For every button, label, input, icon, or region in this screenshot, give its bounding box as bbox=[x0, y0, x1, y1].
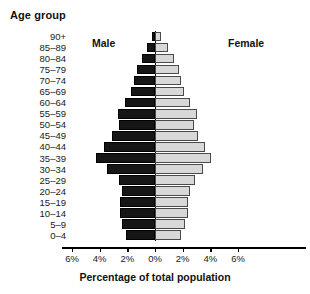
bar-female bbox=[155, 109, 197, 119]
y-axis-label: 10–14 bbox=[0, 208, 72, 219]
bar-female bbox=[155, 43, 168, 53]
bar-male bbox=[131, 87, 155, 97]
pyramid-row bbox=[72, 97, 238, 108]
pyramid-row bbox=[72, 219, 238, 230]
series-label-female: Female bbox=[228, 37, 264, 49]
pyramid-row bbox=[72, 230, 238, 241]
plot-area bbox=[72, 31, 238, 241]
y-axis-label: 55–59 bbox=[0, 108, 72, 119]
bar-male bbox=[137, 65, 155, 75]
y-axis-label: 60–64 bbox=[0, 97, 72, 108]
bar-male bbox=[119, 120, 155, 130]
y-axis-label: 80–84 bbox=[0, 53, 72, 64]
population-pyramid-chart: Age group 90+85–8980–8475–7970–7465–6960… bbox=[0, 0, 310, 294]
bar-male bbox=[107, 164, 155, 174]
x-axis-tick bbox=[210, 247, 211, 252]
y-axis-label: 65–69 bbox=[0, 86, 72, 97]
bar-male bbox=[122, 219, 155, 229]
pyramid-row bbox=[72, 175, 238, 186]
pyramid-row bbox=[72, 141, 238, 152]
pyramid-row bbox=[72, 197, 238, 208]
pyramid-row bbox=[72, 153, 238, 164]
bar-male bbox=[122, 186, 155, 196]
y-axis-label: 45–49 bbox=[0, 130, 72, 141]
pyramid-row bbox=[72, 108, 238, 119]
bar-male bbox=[120, 208, 155, 218]
bar-female bbox=[155, 208, 188, 218]
bar-female bbox=[155, 54, 174, 64]
pyramid-row bbox=[72, 130, 238, 141]
y-axis-label: 0–4 bbox=[0, 230, 72, 241]
bar-female bbox=[155, 98, 190, 108]
bar-female bbox=[155, 153, 211, 163]
y-axis-label: 20–24 bbox=[0, 186, 72, 197]
x-axis-tick-label: 6% bbox=[65, 253, 79, 264]
bar-female bbox=[155, 219, 185, 229]
x-axis-tick bbox=[155, 247, 156, 252]
x-axis-tick-label: 4% bbox=[203, 253, 217, 264]
x-axis-tick bbox=[127, 247, 128, 252]
pyramid-row bbox=[72, 64, 238, 75]
x-axis-tick bbox=[72, 247, 73, 252]
pyramid-row bbox=[72, 86, 238, 97]
bar-female bbox=[155, 120, 194, 130]
pyramid-row bbox=[72, 53, 238, 64]
y-axis-label: 30–34 bbox=[0, 164, 72, 175]
bar-male bbox=[112, 131, 155, 141]
pyramid-row bbox=[72, 208, 238, 219]
bar-male bbox=[125, 98, 155, 108]
x-axis-tick bbox=[100, 247, 101, 252]
y-axis-label: 50–54 bbox=[0, 119, 72, 130]
bar-female bbox=[155, 197, 188, 207]
x-axis-tick bbox=[238, 247, 239, 252]
pyramid-row bbox=[72, 164, 238, 175]
x-axis-tick-label: 2% bbox=[176, 253, 190, 264]
y-axis-label: 25–29 bbox=[0, 175, 72, 186]
bar-female bbox=[155, 175, 195, 185]
pyramid-row bbox=[72, 75, 238, 86]
bar-male bbox=[126, 230, 155, 240]
bar-male bbox=[104, 142, 155, 152]
bar-female bbox=[155, 32, 161, 42]
bar-male bbox=[147, 43, 155, 53]
x-axis-tick bbox=[183, 247, 184, 252]
bar-male bbox=[142, 54, 155, 64]
pyramid-row bbox=[72, 119, 238, 130]
bar-male bbox=[119, 175, 155, 185]
age-group-heading: Age group bbox=[10, 9, 66, 21]
y-axis-label: 5–9 bbox=[0, 219, 72, 230]
pyramid-row bbox=[72, 186, 238, 197]
bar-female bbox=[155, 142, 205, 152]
y-axis-label: 75–79 bbox=[0, 64, 72, 75]
y-axis-label: 90+ bbox=[0, 31, 72, 42]
bar-female bbox=[155, 65, 179, 75]
y-axis-label: 70–74 bbox=[0, 75, 72, 86]
bar-male bbox=[118, 109, 155, 119]
bar-female bbox=[155, 131, 198, 141]
y-axis-label: 40–44 bbox=[0, 141, 72, 152]
x-axis-tick-label: 0% bbox=[148, 253, 162, 264]
bar-male bbox=[120, 197, 155, 207]
bar-female bbox=[155, 164, 203, 174]
y-axis-label: 85–89 bbox=[0, 42, 72, 53]
series-label-male: Male bbox=[92, 37, 115, 49]
y-axis-label: 15–19 bbox=[0, 197, 72, 208]
x-axis-tick-label: 6% bbox=[231, 253, 245, 264]
bar-male bbox=[134, 76, 155, 86]
bar-female bbox=[155, 230, 181, 240]
bar-female bbox=[155, 87, 184, 97]
bar-female bbox=[155, 186, 190, 196]
y-axis-label: 35–39 bbox=[0, 153, 72, 164]
x-axis-tick-label: 2% bbox=[120, 253, 134, 264]
bar-male bbox=[96, 153, 155, 163]
y-axis-category-labels: 90+85–8980–8475–7970–7465–6960–6455–5950… bbox=[0, 31, 72, 241]
x-axis-title: Percentage of total population bbox=[0, 271, 310, 283]
x-axis-tick-label: 4% bbox=[93, 253, 107, 264]
bar-female bbox=[155, 76, 181, 86]
